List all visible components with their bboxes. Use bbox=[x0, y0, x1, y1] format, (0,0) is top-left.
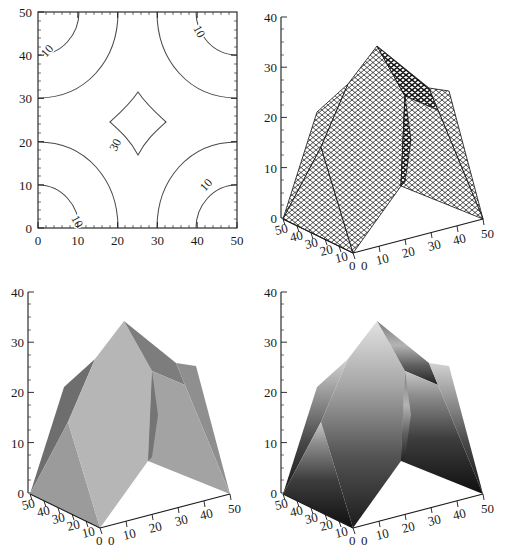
flat-y-tick-10: 10 bbox=[80, 523, 96, 541]
flat-x-tick-50: 50 bbox=[228, 501, 241, 516]
shaded-x-tick-20: 20 bbox=[400, 518, 416, 536]
flat-x-tick-0: 0 bbox=[108, 533, 115, 548]
contour-label-bottom-right: 10 bbox=[197, 176, 215, 194]
mesh-z-tick-30: 30 bbox=[264, 60, 277, 75]
flat-z-tick-30: 30 bbox=[11, 335, 24, 350]
flat-surface bbox=[30, 321, 230, 528]
flat-surface-svg: 40 30 20 10 0 bbox=[0, 275, 253, 549]
mesh-y-tick-0: 0 bbox=[349, 258, 356, 273]
contour-label-top-right: 10 bbox=[190, 23, 208, 40]
shaded-y-tick-50: 50 bbox=[273, 495, 289, 513]
flat-x-tick-10: 10 bbox=[121, 525, 137, 543]
shaded-x-tick-50: 50 bbox=[481, 501, 494, 516]
mesh-y-tick-20: 20 bbox=[318, 241, 334, 259]
flat-z-tick-10: 10 bbox=[11, 436, 24, 451]
y-tick-0: 0 bbox=[26, 221, 33, 236]
mesh-x-tick-0: 0 bbox=[361, 258, 368, 273]
flat-y-tick-30: 30 bbox=[50, 509, 66, 527]
panel-mesh-plot: 40 30 20 10 0 bbox=[253, 0, 507, 275]
flat-y-tick-50: 50 bbox=[20, 495, 36, 513]
shaded-x-tick-10: 10 bbox=[374, 525, 390, 543]
flat-y-tick-40: 40 bbox=[35, 502, 51, 520]
x-tick-40: 40 bbox=[191, 233, 204, 248]
contour-label-bottom-left: 10 bbox=[68, 213, 86, 230]
mesh-y-tick-40: 40 bbox=[288, 227, 304, 245]
contour-top-ticks bbox=[46, 12, 229, 18]
contour-level-labels: 10 10 10 10 30 bbox=[38, 23, 215, 230]
shaded-z-axis: 40 30 20 10 0 bbox=[264, 285, 287, 501]
mesh-z-tick-20: 20 bbox=[264, 110, 277, 125]
contour-right-ticks bbox=[231, 21, 237, 219]
shaded-y-tick-10: 10 bbox=[333, 523, 349, 541]
shaded-y-tick-30: 30 bbox=[303, 509, 319, 527]
x-tick-50: 50 bbox=[231, 233, 244, 248]
mesh-x-tick-50: 50 bbox=[481, 226, 494, 241]
y-tick-40: 40 bbox=[19, 48, 32, 63]
flat-z-axis: 40 30 20 10 0 bbox=[11, 285, 34, 501]
contour-y-tick-labels: 0 10 20 30 40 50 bbox=[19, 5, 32, 236]
y-tick-10: 10 bbox=[19, 178, 32, 193]
mesh-x-tick-30: 30 bbox=[426, 236, 442, 254]
figure-canvas: 10 10 10 10 30 bbox=[0, 0, 507, 549]
mesh-surface bbox=[283, 46, 483, 253]
panel-shaded-surface-plot: 40 30 20 10 0 bbox=[253, 275, 507, 549]
mesh-y-tick-30: 30 bbox=[303, 234, 319, 252]
shaded-z-tick-10: 10 bbox=[264, 436, 277, 451]
shaded-y-tick-40: 40 bbox=[288, 502, 304, 520]
shaded-y-tick-0: 0 bbox=[349, 533, 356, 548]
x-tick-0: 0 bbox=[35, 233, 42, 248]
panel-contour-plot: 10 10 10 10 30 bbox=[0, 0, 253, 275]
shaded-z-tick-40: 40 bbox=[264, 285, 277, 300]
shaded-x-tick-40: 40 bbox=[451, 505, 467, 523]
x-tick-30: 30 bbox=[151, 233, 164, 248]
y-tick-20: 20 bbox=[19, 135, 32, 150]
panel-flat-surface-plot: 40 30 20 10 0 bbox=[0, 275, 253, 549]
flat-y-tick-0: 0 bbox=[96, 533, 103, 548]
flat-z-tick-40: 40 bbox=[11, 285, 24, 300]
shaded-x-tick-30: 30 bbox=[426, 511, 442, 529]
shaded-z-tick-20: 20 bbox=[264, 385, 277, 400]
shaded-y-tick-20: 20 bbox=[318, 516, 334, 534]
x-tick-20: 20 bbox=[111, 233, 124, 248]
mesh-x-tick-20: 20 bbox=[400, 243, 416, 261]
flat-x-tick-30: 30 bbox=[173, 511, 189, 529]
mesh-y-tick-10: 10 bbox=[333, 248, 349, 266]
mesh-y-tick-50: 50 bbox=[273, 220, 289, 238]
contour-lines bbox=[38, 12, 237, 228]
contour-frame bbox=[38, 12, 237, 228]
contour-label-top-left: 10 bbox=[38, 42, 56, 60]
contour-label-center: 30 bbox=[106, 136, 124, 153]
mesh-z-tick-10: 10 bbox=[264, 161, 277, 176]
shaded-surface-svg: 40 30 20 10 0 bbox=[253, 275, 507, 549]
contour-svg: 10 10 10 10 30 bbox=[0, 0, 253, 275]
contour-x-tick-labels: 0 10 20 30 40 50 bbox=[35, 233, 244, 248]
flat-z-tick-20: 20 bbox=[11, 385, 24, 400]
mesh-x-tick-40: 40 bbox=[451, 230, 467, 248]
mesh-svg: 40 30 20 10 0 bbox=[253, 0, 507, 275]
flat-x-tick-40: 40 bbox=[198, 505, 214, 523]
mesh-z-tick-40: 40 bbox=[264, 10, 277, 25]
x-tick-10: 10 bbox=[71, 233, 84, 248]
mesh-x-tick-10: 10 bbox=[374, 250, 390, 268]
flat-y-tick-20: 20 bbox=[65, 516, 81, 534]
shaded-x-tick-0: 0 bbox=[361, 533, 368, 548]
shaded-z-tick-30: 30 bbox=[264, 335, 277, 350]
flat-x-tick-20: 20 bbox=[147, 518, 163, 536]
y-tick-30: 30 bbox=[19, 91, 32, 106]
y-tick-50: 50 bbox=[19, 5, 32, 20]
shaded-surface bbox=[283, 321, 483, 528]
mesh-z-axis: 40 30 20 10 0 bbox=[264, 10, 287, 226]
contour-x-ticks bbox=[38, 222, 237, 228]
